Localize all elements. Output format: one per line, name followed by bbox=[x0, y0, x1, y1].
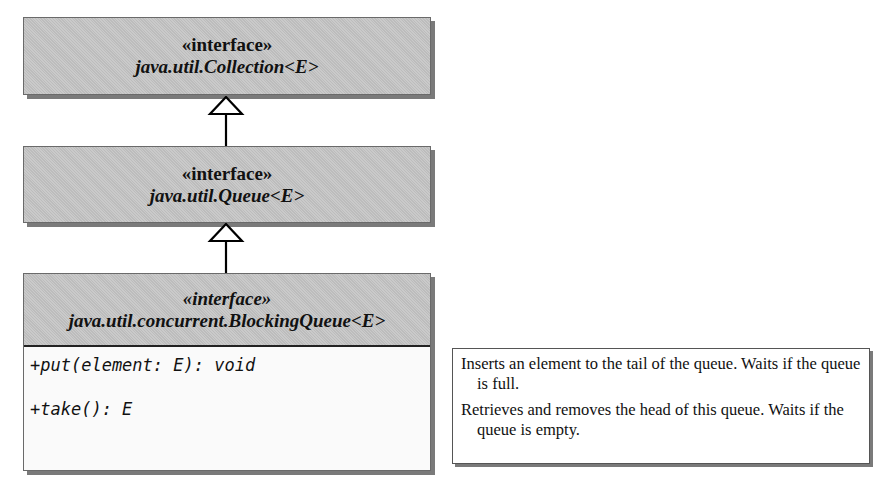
generalization-arrow-icon bbox=[206, 96, 246, 146]
stereotype-label: «interface» bbox=[24, 34, 430, 56]
interface-name: java.util.Collection<E> bbox=[24, 56, 430, 78]
method-description-box: Inserts an element to the tail of the qu… bbox=[452, 348, 870, 464]
stereotype-label: «interface» bbox=[24, 163, 430, 185]
interface-header: «interface» java.util.concurrent.Blockin… bbox=[24, 274, 430, 347]
interface-header: «interface» java.util.Queue<E> bbox=[24, 147, 430, 207]
method-take: +take(): E bbox=[30, 397, 430, 441]
interface-box-collection: «interface» java.util.Collection<E> bbox=[23, 17, 431, 95]
description-take: Retrieves and removes the head of this q… bbox=[461, 400, 861, 440]
interface-box-queue: «interface» java.util.Queue<E> bbox=[23, 146, 431, 223]
interface-header: «interface» java.util.Collection<E> bbox=[24, 18, 430, 78]
description-put: Inserts an element to the tail of the qu… bbox=[461, 354, 861, 394]
method-put: +put(element: E): void bbox=[30, 353, 430, 397]
generalization-arrow-icon bbox=[206, 223, 246, 273]
method-list: +put(element: E): void +take(): E bbox=[24, 347, 430, 441]
interface-name: java.util.Queue<E> bbox=[24, 185, 430, 207]
stereotype-label: «interface» bbox=[24, 288, 430, 310]
interface-name: java.util.concurrent.BlockingQueue<E> bbox=[24, 310, 430, 332]
interface-box-blocking-queue: «interface» java.util.concurrent.Blockin… bbox=[23, 273, 431, 471]
